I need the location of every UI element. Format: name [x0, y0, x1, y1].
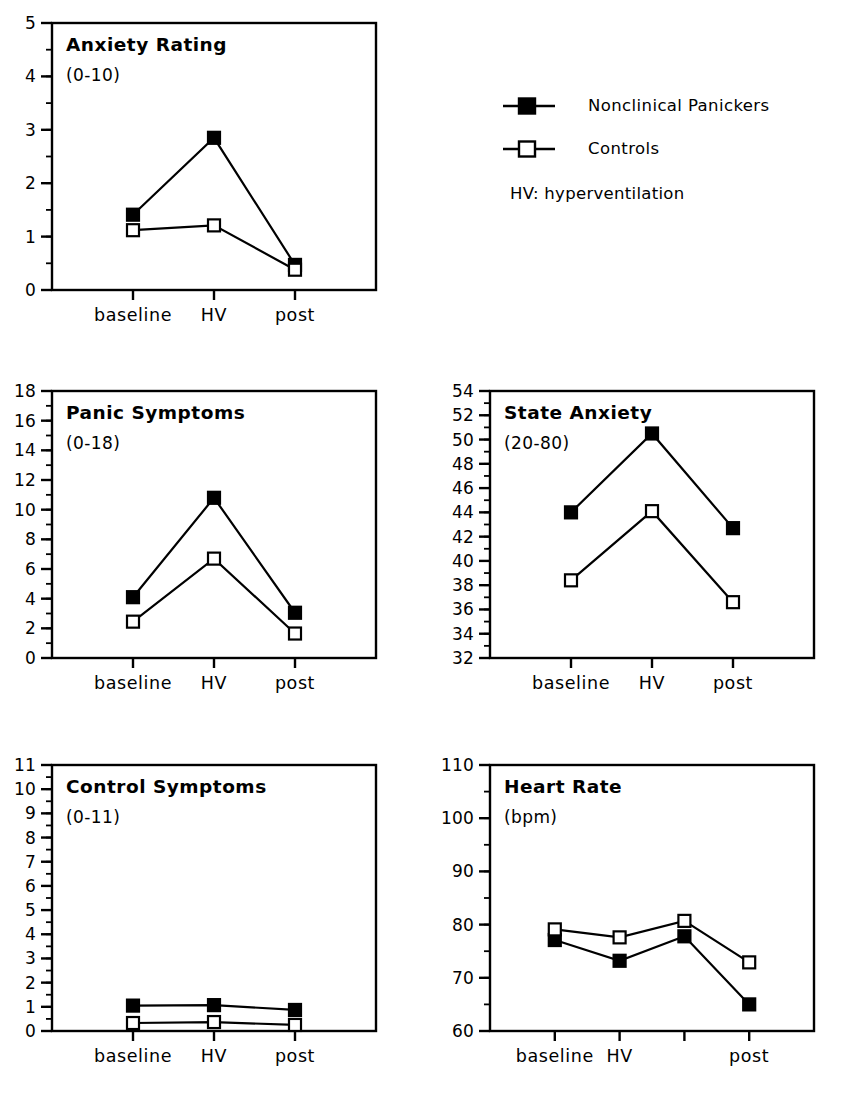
- y-tick-label: 0: [25, 1021, 36, 1041]
- plot-frame: [490, 765, 814, 1031]
- chart-control-symptoms: 01234567891011baselineHVpostControl Symp…: [0, 742, 420, 1101]
- filled-square-marker: [208, 492, 220, 504]
- panel-subtitle: (0-11): [66, 807, 120, 827]
- y-tick-label: 2: [25, 173, 36, 193]
- filled-square-marker: [289, 607, 301, 619]
- panel-subtitle: (0-18): [66, 433, 120, 453]
- filled-square-marker: [127, 1000, 139, 1012]
- y-tick-label: 8: [25, 529, 36, 549]
- y-tick-label: 6: [25, 559, 36, 579]
- y-tick-label: 46: [452, 478, 474, 498]
- filled-square-marker-icon: [500, 97, 558, 115]
- panel-title: Anxiety Rating: [66, 34, 227, 55]
- panel-subtitle: (bpm): [504, 807, 557, 827]
- plot-frame: [52, 765, 376, 1031]
- x-tick-label: HV: [639, 673, 665, 693]
- panel-subtitle: (20-80): [504, 433, 569, 453]
- y-tick-label: 18: [14, 381, 36, 401]
- x-tick-label: post: [275, 673, 315, 693]
- panel-title: Panic Symptoms: [66, 402, 245, 423]
- filled-square-marker: [127, 591, 139, 603]
- filled-square-marker: [565, 506, 577, 518]
- filled-square-marker: [727, 522, 739, 534]
- y-tick-label: 36: [452, 599, 474, 619]
- x-tick-label: post: [275, 1046, 315, 1066]
- x-tick-label: HV: [201, 1046, 227, 1066]
- x-tick-label: baseline: [94, 1046, 172, 1066]
- y-tick-label: 44: [452, 502, 474, 522]
- y-tick-label: 38: [452, 575, 474, 595]
- filled-square-marker: [743, 998, 755, 1010]
- filled-square-marker: [289, 1004, 301, 1016]
- x-tick-label: post: [275, 305, 315, 325]
- x-tick-label: post: [729, 1046, 769, 1066]
- y-tick-label: 7: [25, 852, 36, 872]
- open-square-marker: [289, 264, 301, 276]
- panel-title: Heart Rate: [504, 776, 622, 797]
- filled-square-marker: [208, 132, 220, 144]
- y-tick-label: 60: [452, 1021, 474, 1041]
- open-square-marker: [549, 923, 561, 935]
- panel-title: State Anxiety: [504, 402, 652, 423]
- y-tick-label: 48: [452, 454, 474, 474]
- filled-square-marker: [678, 930, 690, 942]
- open-square-marker: [127, 616, 139, 628]
- x-tick-label: baseline: [516, 1046, 594, 1066]
- y-tick-label: 5: [25, 13, 36, 33]
- legend-note-hv: HV: hyperventilation: [500, 184, 858, 203]
- y-tick-label: 1: [25, 227, 36, 247]
- panel-title: Control Symptoms: [66, 776, 267, 797]
- y-tick-label: 32: [452, 648, 474, 668]
- chart-panel-state-anxiety: 323436384042444648505254baselineHVpostSt…: [438, 368, 858, 740]
- y-tick-label: 14: [14, 440, 36, 460]
- open-square-marker-icon: [500, 140, 558, 158]
- open-square-marker: [208, 219, 220, 231]
- y-tick-label: 54: [452, 381, 474, 401]
- open-square-marker: [127, 224, 139, 236]
- x-tick-label: baseline: [532, 673, 610, 693]
- open-square-marker: [646, 505, 658, 517]
- y-tick-label: 34: [452, 624, 474, 644]
- multi-panel-figure: 012345baselineHVpostAnxiety Rating(0-10)…: [0, 0, 858, 1101]
- y-tick-label: 9: [25, 803, 36, 823]
- filled-square-marker: [208, 999, 220, 1011]
- y-tick-label: 42: [452, 527, 474, 547]
- y-tick-label: 70: [452, 968, 474, 988]
- legend-entry-controls: Controls: [500, 139, 858, 158]
- y-tick-label: 3: [25, 120, 36, 140]
- open-square-marker: [727, 596, 739, 608]
- x-tick-label: HV: [201, 305, 227, 325]
- open-square-marker: [614, 931, 626, 943]
- y-tick-label: 12: [14, 470, 36, 490]
- y-tick-label: 2: [25, 618, 36, 638]
- chart-panel-panic-symptoms: 024681012141618baselineHVpostPanic Sympt…: [0, 368, 420, 740]
- y-tick-label: 4: [25, 66, 36, 86]
- panel-subtitle: (0-10): [66, 65, 120, 85]
- filled-square-marker: [127, 209, 139, 221]
- y-tick-label: 2: [25, 973, 36, 993]
- y-tick-label: 11: [14, 755, 36, 775]
- open-square-marker: [127, 1017, 139, 1029]
- y-tick-label: 10: [14, 779, 36, 799]
- legend-label-controls: Controls: [558, 139, 659, 158]
- x-tick-label: HV: [606, 1046, 632, 1066]
- open-square-marker: [743, 956, 755, 968]
- chart-panel-control-symptoms: 01234567891011baselineHVpostControl Symp…: [0, 742, 420, 1101]
- plot-frame: [52, 23, 376, 290]
- y-tick-label: 10: [14, 500, 36, 520]
- chart-panel-heart-rate: 60708090100110baselineHVpostHeart Rate(b…: [438, 742, 858, 1101]
- y-tick-label: 100: [441, 808, 474, 828]
- x-tick-label: post: [713, 673, 753, 693]
- legend-entry-panickers: Nonclinical Panickers: [500, 96, 858, 115]
- y-tick-label: 3: [25, 948, 36, 968]
- plot-frame: [52, 391, 376, 658]
- y-tick-label: 0: [25, 280, 36, 300]
- open-square-marker: [565, 574, 577, 586]
- open-square-marker: [289, 628, 301, 640]
- legend-label-panickers: Nonclinical Panickers: [558, 96, 770, 115]
- chart-anxiety-rating: 012345baselineHVpostAnxiety Rating(0-10): [0, 0, 420, 372]
- y-tick-label: 6: [25, 876, 36, 896]
- x-tick-label: baseline: [94, 305, 172, 325]
- y-tick-label: 5: [25, 900, 36, 920]
- y-tick-label: 40: [452, 551, 474, 571]
